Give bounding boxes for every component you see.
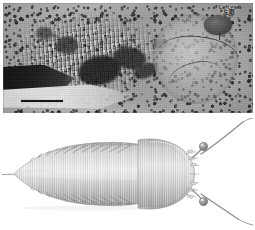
stalked-eye-upper <box>199 142 207 150</box>
fossil-figure: Left eye 左眼 <box>0 0 255 230</box>
reconstruction-panel <box>0 118 255 230</box>
eye-highlight-lower <box>201 199 203 201</box>
antenna-lower <box>201 194 238 219</box>
antenna-upper-tip <box>243 118 253 122</box>
left-eye-annotation: Left eye 左眼 <box>206 5 254 17</box>
cephalon-striations <box>134 134 198 214</box>
stalked-eye-lower <box>199 197 207 205</box>
eye-highlight-upper <box>201 144 203 146</box>
drawing-ground-shadow <box>22 206 154 211</box>
dark-blotch <box>56 36 79 54</box>
reconstruction-drawing <box>0 118 255 230</box>
fossil-photograph-panel: Left eye 左眼 <box>3 3 253 113</box>
left-eye-label-chinese: 左眼 <box>206 10 254 16</box>
annotation-leader-line <box>219 33 220 41</box>
fossil-left-eye-structure <box>204 15 232 35</box>
antenna-upper <box>201 122 243 154</box>
scale-bar <box>21 100 64 102</box>
antenna-lower-tip <box>238 219 253 225</box>
